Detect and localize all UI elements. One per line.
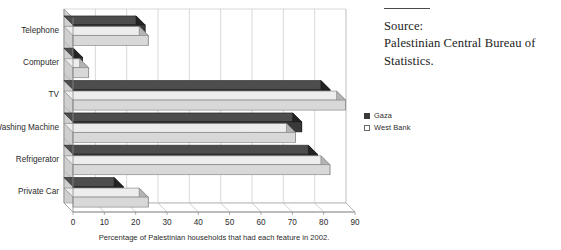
chart-legend: Gaza West Bank	[364, 110, 454, 134]
source-line-0: Source:	[384, 18, 556, 35]
x-tick-label: 30	[162, 218, 172, 227]
figure-root: 0102030405060708090TelephoneComputerTVWa…	[0, 0, 561, 250]
bar-front-face	[73, 132, 295, 142]
bar-front-face	[73, 197, 148, 207]
legend-swatch-west-bank-icon	[364, 125, 370, 131]
y-category-label: Telephone	[21, 26, 59, 35]
bar-chart: 0102030405060708090TelephoneComputerTVWa…	[0, 0, 372, 250]
chart-canvas: 0102030405060708090TelephoneComputerTVWa…	[0, 0, 372, 250]
bar-front-face	[73, 165, 330, 175]
bar-top-face	[64, 16, 145, 25]
y-category-label: TV	[49, 90, 60, 99]
x-tick-label: 10	[100, 218, 110, 227]
x-tick-label: 50	[225, 218, 235, 227]
x-tick-label: 70	[288, 218, 298, 227]
bar-top-face	[64, 156, 330, 165]
x-axis-title: Percentage of Palestinian households tha…	[99, 233, 330, 242]
bar-west-bank-refrigerator[interactable]	[64, 156, 330, 175]
source-line-1: Palestinian Central Bureau of	[384, 35, 556, 52]
legend-item-gaza[interactable]: Gaza	[364, 110, 454, 121]
legend-label-west-bank: West Bank	[374, 123, 411, 132]
x-tick-label: 90	[350, 218, 360, 227]
bar-top-face	[64, 123, 295, 132]
bar-west-bank-private-car[interactable]	[64, 188, 148, 207]
y-category-label: Private Car	[18, 187, 59, 196]
bar-top-face	[64, 113, 302, 122]
y-category-label: Washing Machine	[0, 123, 59, 132]
legend-label-gaza: Gaza	[374, 111, 392, 120]
x-tick-label: 60	[256, 218, 266, 227]
bar-west-bank-washing-machine[interactable]	[64, 123, 295, 142]
bar-west-bank-telephone[interactable]	[64, 26, 148, 45]
bar-west-bank-tv[interactable]	[64, 91, 346, 110]
x-tick-label: 0	[71, 218, 76, 227]
x-tick-label: 20	[131, 218, 141, 227]
source-divider	[384, 8, 430, 9]
source-note: Source: Palestinian Central Bureau of St…	[384, 8, 556, 70]
bar-front-face	[73, 100, 346, 110]
x-tick-label: 80	[319, 218, 329, 227]
x-tick-label: 40	[194, 218, 204, 227]
bar-top-face	[64, 81, 330, 90]
bar-front-face	[73, 35, 148, 45]
legend-item-west-bank[interactable]: West Bank	[364, 122, 454, 133]
bar-top-face	[64, 145, 317, 154]
y-category-label: Computer	[23, 58, 59, 67]
source-line-2: Statistics.	[384, 53, 556, 70]
bar-top-face	[64, 91, 346, 100]
y-category-label: Refrigerator	[16, 155, 60, 164]
bar-top-face	[64, 26, 148, 35]
legend-swatch-gaza-icon	[364, 113, 370, 119]
source-text: Source: Palestinian Central Bureau of St…	[384, 18, 556, 70]
bar-front-face	[73, 68, 89, 78]
bar-top-face	[64, 188, 148, 197]
